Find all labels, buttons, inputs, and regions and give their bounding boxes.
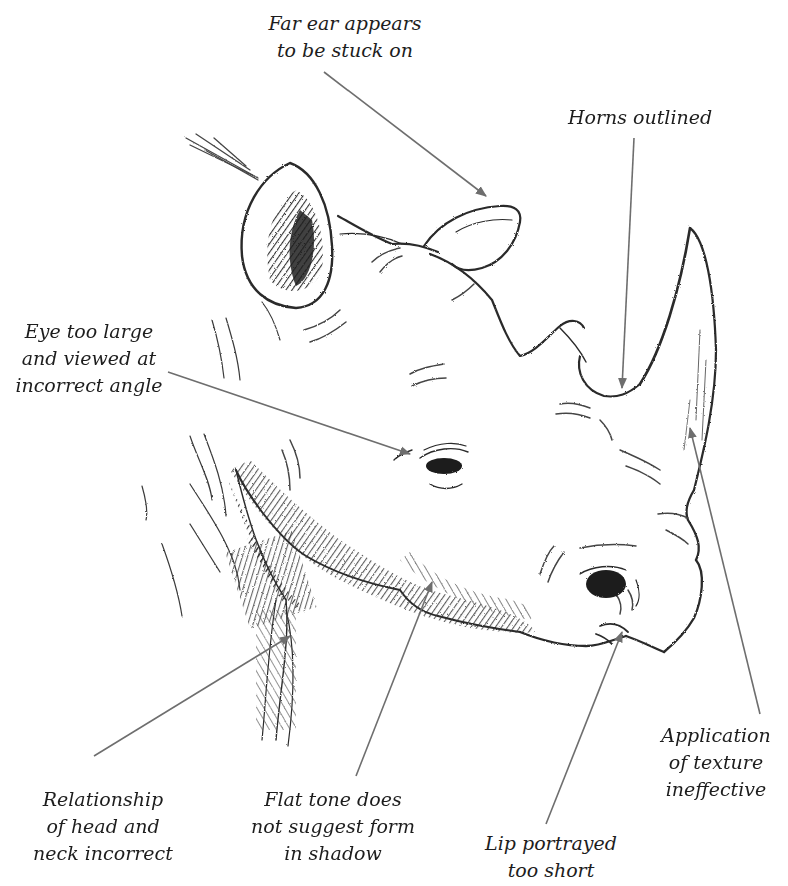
annotation-line: Far ear appears (250, 10, 440, 37)
annotation-line: of head and (18, 813, 188, 840)
annotation-line: neck incorrect (18, 840, 188, 867)
annotation-line: Horns outlined (550, 104, 730, 131)
leader-tone (356, 582, 432, 776)
annotation-line: to be stuck on (250, 37, 440, 64)
annotation-line: Lip portrayed (476, 830, 626, 857)
annotation-line: and viewed at (4, 345, 174, 372)
annotation-texture: Application of texture ineffective (646, 722, 786, 803)
annotation-far-ear: Far ear appears to be stuck on (250, 10, 440, 64)
leader-lip (546, 632, 622, 824)
near-ear (242, 163, 333, 308)
ear-tuft (186, 134, 258, 180)
front-horn (640, 228, 716, 490)
annotation-eye: Eye too large and viewed at incorrect an… (4, 318, 174, 399)
annotation-neck: Relationship of head and neck incorrect (18, 786, 188, 867)
annotation-line: too short (476, 857, 626, 884)
annotation-horns: Horns outlined (550, 104, 730, 131)
annotation-tone: Flat tone does not suggest form in shado… (238, 786, 428, 867)
annotation-line: Application (646, 722, 786, 749)
leader-far-ear (324, 72, 486, 196)
annotation-line: Eye too large (4, 318, 174, 345)
nostril (580, 567, 639, 606)
eye (394, 443, 468, 488)
annotation-line: not suggest form (238, 813, 428, 840)
annotation-line: of texture (646, 749, 786, 776)
annotated-sketch: Far ear appears to be stuck on Horns out… (0, 0, 788, 886)
annotation-line: Relationship (18, 786, 188, 813)
annotation-line: in shadow (238, 840, 428, 867)
leader-horns (622, 138, 634, 388)
annotation-line: incorrect angle (4, 372, 174, 399)
leader-eye (168, 372, 410, 454)
annotation-line: ineffective (646, 776, 786, 803)
annotation-lip: Lip portrayed too short (476, 830, 626, 884)
far-ear (424, 206, 520, 270)
head-outline (338, 216, 640, 397)
annotation-line: Flat tone does (238, 786, 428, 813)
